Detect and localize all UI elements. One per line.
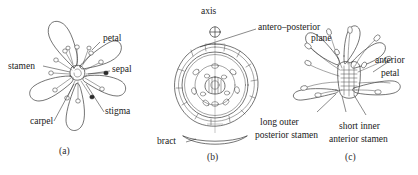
label-long-outer-posterior-stamen-line2: posterior stamen bbox=[255, 130, 318, 140]
label-axis: axis bbox=[201, 6, 216, 16]
label-antero-posterior-plane-line1: antero–posterior bbox=[258, 22, 320, 32]
caption-a: (a) bbox=[59, 146, 70, 156]
label-anterior-petal-line1: anterior bbox=[375, 55, 405, 65]
caption-b: (b) bbox=[207, 152, 218, 162]
leader-antero-posterior-plane bbox=[200, 29, 256, 47]
label-carpel: carpel bbox=[30, 116, 53, 126]
caption-c: (c) bbox=[345, 152, 356, 162]
label-bract: bract bbox=[157, 136, 176, 146]
label-sepal: sepal bbox=[112, 64, 132, 74]
label-petal: petal bbox=[103, 33, 121, 43]
label-short-inner-anterior-stamen-line1: short inner bbox=[339, 121, 380, 131]
leader-bract bbox=[186, 139, 196, 142]
label-stamen: stamen bbox=[8, 61, 35, 71]
label-short-inner-anterior-stamen-line2: anterior stamen bbox=[329, 134, 388, 144]
botanical-flower-figure: stamen petal sepal stigma carpel (a) axi… bbox=[0, 0, 418, 175]
label-antero-posterior-plane-line2: plane bbox=[311, 33, 332, 43]
label-stigma: stigma bbox=[105, 106, 130, 116]
label-anterior-petal-line2: petal bbox=[381, 68, 399, 78]
label-long-outer-posterior-stamen-line1: long outer bbox=[260, 117, 299, 127]
